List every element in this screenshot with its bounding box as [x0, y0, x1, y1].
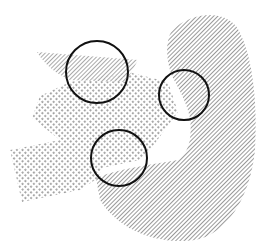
- regions-layer: [10, 15, 256, 241]
- overlap-diagram: [0, 0, 265, 249]
- diagram-canvas: [0, 0, 265, 249]
